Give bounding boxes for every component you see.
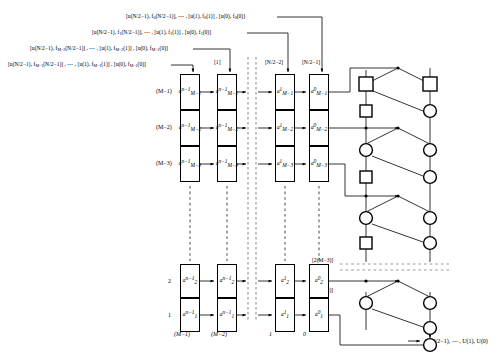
row-label-2: 2 bbox=[168, 278, 171, 284]
diagram-lines bbox=[0, 0, 504, 355]
input-stream-label-3: [u(N/2−1), fM−1(N/2−1)] , ⋯ , [u(1), fM−… bbox=[8, 62, 146, 68]
cell-label: an−12 bbox=[220, 276, 234, 285]
register-cell: a01 bbox=[309, 298, 329, 332]
cell-label: a1M−1 bbox=[277, 87, 293, 96]
column-label-1: 1 bbox=[269, 331, 272, 337]
cell-label: a02 bbox=[315, 276, 323, 285]
circle-node bbox=[424, 322, 437, 335]
circle-node bbox=[424, 297, 437, 310]
register-cell: an−11 bbox=[180, 298, 200, 332]
input-stream-label-0: [u(N/2−1), f0(N/2−1)], ⋯ , [u(1), f0(1)]… bbox=[126, 14, 245, 20]
row-label-1: 1 bbox=[168, 312, 171, 318]
register-cell: a0M−1 bbox=[309, 74, 329, 110]
cell-label: an−11 bbox=[183, 310, 197, 319]
cell-label: an−1M−2 bbox=[216, 123, 239, 132]
circle-node bbox=[424, 212, 437, 225]
circle-node bbox=[360, 212, 373, 225]
circle-node bbox=[424, 171, 437, 184]
circle-node bbox=[360, 297, 373, 310]
register-cell: an−1M−1 bbox=[217, 74, 237, 110]
register-cell: a1M−3 bbox=[275, 146, 295, 182]
circle-node bbox=[360, 144, 373, 157]
cell-label: an−1M−3 bbox=[179, 159, 202, 168]
stage-tag-1: [1] bbox=[214, 60, 221, 66]
cell-label: a0M−2 bbox=[311, 123, 327, 132]
stage-tag-2m3: [2(M−3)] bbox=[312, 258, 333, 264]
square-node bbox=[360, 237, 372, 249]
register-cell: an−12 bbox=[180, 264, 200, 298]
square-node bbox=[359, 77, 373, 91]
square-node bbox=[360, 105, 372, 117]
register-cell: a11 bbox=[275, 298, 295, 332]
cell-label: a0M−3 bbox=[311, 159, 327, 168]
register-cell: an−1M−1 bbox=[180, 74, 200, 110]
circle-node bbox=[424, 144, 437, 157]
circle-node bbox=[424, 237, 437, 250]
row-label-m2: (M−2) bbox=[156, 124, 172, 130]
register-cell: a0M−3 bbox=[309, 146, 329, 182]
register-cell: an−11 bbox=[217, 298, 237, 332]
cell-label: an−12 bbox=[183, 276, 197, 285]
register-cell: a02 bbox=[309, 264, 329, 298]
cell-label: an−1M−1 bbox=[179, 87, 202, 96]
cell-label: a11 bbox=[281, 310, 289, 319]
cell-label: a12 bbox=[281, 276, 289, 285]
cell-label: a1M−2 bbox=[277, 123, 293, 132]
column-label-0: 0 bbox=[303, 331, 306, 337]
square-node bbox=[360, 171, 372, 183]
row-label-m1: (M−1) bbox=[156, 88, 172, 94]
stage-tag-n2minus1: [N/2−1] bbox=[302, 60, 320, 66]
cell-label: a01 bbox=[315, 310, 323, 319]
cell-label: a0M−1 bbox=[311, 87, 327, 96]
register-cell: an−12 bbox=[217, 264, 237, 298]
square-node bbox=[423, 77, 437, 91]
cell-label: an−1M−3 bbox=[216, 159, 239, 168]
input-stream-label-2: [u(N/2−1), fM−2(N/2−1)] , ⋯ , [u(1), fM−… bbox=[30, 46, 168, 52]
row-label-m3: (M−3) bbox=[156, 160, 172, 166]
register-cell: a1M−1 bbox=[275, 74, 295, 110]
register-cell: an−1M−2 bbox=[217, 110, 237, 146]
register-cell: an−1M−3 bbox=[217, 146, 237, 182]
cell-label: an−1M−1 bbox=[216, 87, 239, 96]
register-cell: a0M−2 bbox=[309, 110, 329, 146]
cell-label: an−1M−2 bbox=[179, 123, 202, 132]
register-cell: an−1M−3 bbox=[180, 146, 200, 182]
stage-tag-n2minus2: [N/2−2] bbox=[265, 60, 283, 66]
register-cell: an−1M−2 bbox=[180, 110, 200, 146]
register-cell: a12 bbox=[275, 264, 295, 298]
cell-label: a1M−3 bbox=[277, 159, 293, 168]
register-cell: a1M−2 bbox=[275, 110, 295, 146]
input-stream-label-1: [u(N/2−1), f1(N/2−1)], ⋯ , [u(1), f1(1)]… bbox=[92, 30, 211, 36]
circle-node bbox=[424, 105, 437, 118]
cell-label: an−11 bbox=[220, 310, 234, 319]
diagram-canvas: [u(N/2−1), f0(N/2−1)], ⋯ , [u(1), f0(1)]… bbox=[0, 0, 504, 355]
output-stream-label: U(N/2−1), ⋯ , U(1), U(0) bbox=[425, 338, 488, 344]
